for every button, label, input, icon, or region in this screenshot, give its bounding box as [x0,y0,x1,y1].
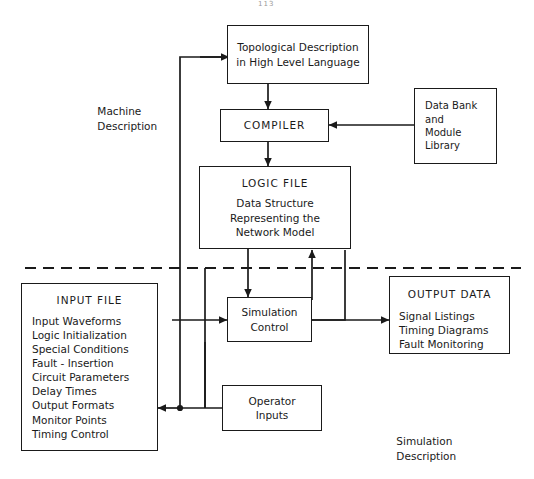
operator-line-1: Operator [249,394,296,408]
node-output-data[interactable]: OUTPUT DATA Signal Listings Timing Diagr… [389,276,510,354]
logicfile-line-2: Representing the [230,211,320,225]
outputdata-item-2: Timing Diagrams [399,323,488,337]
simcontrol-right-bus [312,300,345,320]
node-data-bank-module-library[interactable]: Data Bank and Module Library [414,88,497,164]
logicfile-title: LOGIC FILE [242,176,309,190]
logicfile-line-3: Network Model [230,225,320,239]
topological-line-2: in High Level Language [236,55,359,69]
arrow-simcontrol-to-logicfile [312,250,345,320]
junction-dot [177,405,183,411]
inputfile-item-4: Fault - Insertion [32,356,114,370]
inputfile-item-6: Delay Times [32,384,97,398]
operator-line-2: Inputs [249,408,296,422]
node-simulation-control[interactable]: Simulation Control [227,297,312,342]
databank-line-3: Module [425,126,477,139]
compiler-label: COMPILER [244,118,305,132]
node-operator-inputs[interactable]: Operator Inputs [222,385,322,431]
outputdata-item-3: Fault Monitoring [399,337,484,351]
simulation-desc-line-2: Description [396,450,456,462]
inputfile-item-7: Output Formats [32,398,114,412]
inputfile-item-1: Input Waveforms [32,314,121,328]
databank-line-4: Library [425,139,477,152]
simcontrol-line-2: Control [242,320,298,334]
node-compiler[interactable]: COMPILER [220,109,329,142]
inputfile-item-9: Timing Control [32,427,109,441]
databank-line-2: and [425,113,477,126]
outputdata-title: OUTPUT DATA [408,287,492,301]
node-logic-file[interactable]: LOGIC FILE Data Structure Representing t… [199,166,351,249]
inputfile-item-5: Circuit Parameters [32,370,129,384]
node-input-file[interactable]: INPUT FILE Input Waveforms Logic Initial… [21,283,158,451]
inputfile-title: INPUT FILE [57,293,123,307]
inputfile-item-8: Monitor Points [32,413,107,427]
node-topological-description[interactable]: Topological Description in High Level La… [227,25,369,84]
label-machine-description: Machine Description [84,89,157,149]
inputfile-item-3: Special Conditions [32,342,129,356]
simcontrol-line-1: Simulation [242,305,298,319]
block-diagram: 113 [0,0,534,479]
logicfile-line-1: Data Structure [230,196,320,210]
simulation-desc-line-1: Simulation [396,435,452,447]
databank-line-1: Data Bank [425,99,477,112]
inputfile-item-2: Logic Initialization [32,328,127,342]
machine-desc-line-2: Description [97,120,157,132]
outputdata-item-1: Signal Listings [399,309,475,323]
label-simulation-description: Simulation Description [383,419,456,479]
machine-desc-line-1: Machine [97,105,141,117]
topological-line-1: Topological Description [236,40,359,54]
